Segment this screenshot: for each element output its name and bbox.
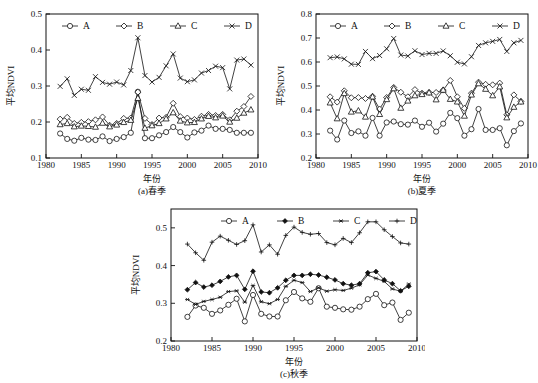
series-line-D [60,38,251,96]
series-C-marker [308,290,313,293]
series-A-marker [227,127,232,132]
series-A-marker [213,126,218,131]
series-B-marker [333,278,338,283]
series-A-marker [406,310,411,315]
series-line-D [187,222,408,260]
series-A-marker [504,143,509,148]
series-A-marker [469,127,474,132]
legend-item-D[interactable]: D [389,216,417,226]
x-tick-label: 2010 [519,160,538,170]
legend-label-C: C [459,21,465,31]
chart-c: 19801985199019952000200520100.20.30.40.5… [125,195,425,383]
legend-C-marker [339,219,344,222]
series-A-marker [201,305,206,310]
series-A-marker [241,130,246,135]
series-B-marker [210,283,215,288]
x-tick-label: 2005 [214,160,233,170]
series-A-marker [382,303,387,308]
legend-item-C[interactable]: C [438,21,465,31]
legend-B-marker [121,23,127,29]
legend-item-A[interactable]: A [62,21,90,31]
series-D-marker [497,37,502,42]
series-D-marker [476,43,481,48]
legend-item-A[interactable]: A [330,21,358,31]
series-C-marker [170,109,176,114]
chart-panel-autumn: 19801985199019952000200520100.20.30.40.5… [125,195,425,383]
series-B-marker [300,273,305,278]
legend-label-A: A [351,21,358,31]
series-D-marker [234,242,239,247]
series-D-marker [58,84,63,89]
legend: ABCD [330,21,520,31]
y-axis-label: 平均NDVI [5,66,16,107]
series-C-marker [64,120,70,125]
chart-a: 19801985199019952000200520100.10.20.30.4… [0,0,268,200]
y-tick-label: 0.3 [31,81,43,91]
series-A-marker [65,136,70,141]
legend-label-C: C [191,21,197,31]
x-tick-label: 2010 [249,160,268,170]
series-C-marker [341,289,346,292]
series-C-marker [267,302,272,305]
series-A-marker [511,129,516,134]
series-A-marker [218,308,223,313]
legend-A-marker [226,218,231,223]
y-tick-label: 0.1 [31,153,42,163]
series-D-marker [455,60,460,65]
y-tick-label: 0.3 [301,129,313,139]
series-C-marker [275,298,280,301]
series-D-marker [93,74,98,79]
series-A-marker [283,298,288,303]
series-A-marker [300,296,305,301]
series-A-marker [405,122,410,127]
series-B-marker [92,117,98,123]
series-B-marker [334,99,340,105]
series-A-marker [142,136,147,141]
series-D-marker [377,53,382,58]
x-tick-label: 1990 [378,160,397,170]
legend-item-A[interactable]: A [221,216,249,226]
chart-panel-spring: 19801985199019952000200520100.10.20.30.4… [0,0,268,200]
y-tick-label: 0.8 [301,9,313,19]
series-D-marker [100,80,105,85]
series-C-marker [156,120,162,125]
series-A-marker [206,123,211,128]
legend-item-D[interactable]: D [492,21,520,31]
series-A-marker [178,129,183,134]
legend-item-D[interactable]: D [224,21,252,31]
x-tick-label: 2000 [326,343,345,353]
legend-item-B[interactable]: B [277,216,304,226]
legend-item-C[interactable]: C [170,21,197,31]
series-A-marker [58,131,63,136]
legend-A-marker [67,23,72,28]
series-C-marker [483,86,489,91]
y-tick-label: 0.4 [301,105,313,115]
series-A-marker [267,314,272,319]
series-C-marker [241,110,247,115]
legend-item-B[interactable]: B [116,21,143,31]
series-C-marker [210,298,215,301]
series-A-marker [209,311,214,316]
series-B-marker [308,272,313,277]
series-A-marker [462,133,467,138]
series-D-marker [226,238,231,243]
series-A-marker [100,134,105,139]
legend-item-B[interactable]: B [384,21,411,31]
series-D-marker [251,223,256,228]
y-axis-label: 平均NDVI [130,255,141,296]
series-A-marker [72,138,77,143]
y-tick-label: 0.2 [301,153,312,163]
series-A-marker [434,129,439,134]
series-A-marker [448,110,453,115]
series-B-marker [433,89,439,95]
legend-label-D: D [513,21,520,31]
series-A-marker [349,307,354,312]
y-tick-label: 0.5 [301,81,313,91]
series-B [57,89,254,128]
legend-label-A: A [242,216,249,226]
x-tick-label: 1995 [285,343,304,353]
legend: ABCD [62,21,252,31]
series-A-marker [79,135,84,140]
legend-item-C[interactable]: C [333,216,360,226]
y-tick-label: 0.3 [156,298,168,308]
